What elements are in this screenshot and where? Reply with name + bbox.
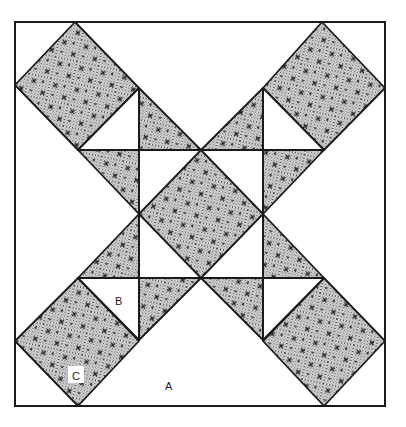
label-c: C — [72, 370, 80, 382]
quilt-block-diagram: A B C — [0, 0, 406, 427]
label-a: A — [165, 380, 173, 392]
label-b: B — [115, 295, 122, 307]
